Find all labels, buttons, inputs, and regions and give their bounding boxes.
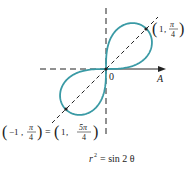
svg-text:4: 4 bbox=[29, 133, 33, 142]
svg-text:4: 4 bbox=[171, 30, 175, 39]
svg-text:): ) bbox=[37, 123, 42, 141]
origin-label: 0 bbox=[109, 71, 114, 82]
point-marker-lower bbox=[64, 107, 67, 110]
svg-text:): ) bbox=[93, 123, 98, 141]
lower-point-label: ( −1 , π 4 ) = ( 1 , 5π 4 ) bbox=[2, 123, 98, 142]
point-marker-upper bbox=[144, 27, 147, 30]
svg-text:,: , bbox=[66, 127, 68, 137]
svg-text:(: ( bbox=[2, 123, 7, 141]
svg-text:5π: 5π bbox=[79, 123, 88, 132]
svg-text:2: 2 bbox=[94, 152, 97, 158]
svg-text:,: , bbox=[21, 127, 23, 137]
svg-text:(: ( bbox=[54, 123, 59, 141]
svg-text:): ) bbox=[179, 20, 184, 38]
svg-text:π: π bbox=[29, 123, 34, 132]
svg-text:−1: −1 bbox=[9, 127, 19, 137]
polar-axis-arrow-icon bbox=[158, 66, 166, 72]
svg-text:= sin 2 θ: = sin 2 θ bbox=[100, 153, 135, 164]
svg-text:r: r bbox=[89, 153, 93, 164]
svg-text:π: π bbox=[170, 20, 175, 29]
lemniscate-figure: 0 A ( 1 , π 4 ) ( −1 , π 4 ) = ( 1 , 5π … bbox=[0, 0, 190, 174]
origin-marker bbox=[104, 67, 107, 70]
equation-label: r 2 = sin 2 θ bbox=[89, 152, 135, 164]
upper-point-label: ( 1 , π 4 ) bbox=[152, 20, 184, 39]
svg-text:1: 1 bbox=[61, 127, 66, 137]
svg-text:(: ( bbox=[152, 20, 157, 38]
svg-text:4: 4 bbox=[82, 133, 86, 142]
svg-text:1: 1 bbox=[159, 24, 164, 34]
svg-text:=: = bbox=[45, 126, 51, 137]
polar-axis-label: A bbox=[156, 73, 164, 84]
svg-text:,: , bbox=[164, 24, 166, 34]
